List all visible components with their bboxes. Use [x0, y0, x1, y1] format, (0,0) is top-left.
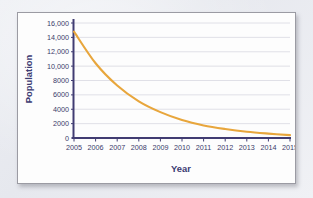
- y-tick-label: 10,000: [47, 62, 69, 71]
- x-tick-label: 2012: [217, 143, 233, 152]
- x-tick-label: 2014: [260, 143, 276, 152]
- y-tick-label: 14,000: [47, 33, 69, 42]
- population-curve: [74, 32, 290, 136]
- x-tick-label: 2011: [196, 143, 211, 152]
- x-tick-label: 2008: [131, 143, 147, 152]
- y-tick-label: 16,000: [47, 19, 69, 28]
- x-tick-label: 2007: [109, 143, 125, 152]
- y-axis-title: Population: [23, 55, 34, 104]
- x-tick-label: 2009: [152, 143, 168, 152]
- y-tick-label: 8000: [53, 76, 69, 85]
- x-tick-label: 2010: [174, 143, 190, 152]
- y-tick-label: 2000: [53, 119, 69, 128]
- x-tick-label: 2006: [88, 143, 104, 152]
- y-tick-label: 4000: [53, 105, 69, 114]
- chart-figure: 0200040006000800010,00012,00014,00016,00…: [17, 12, 296, 184]
- figure-page: 0200040006000800010,00012,00014,00016,00…: [0, 0, 313, 198]
- x-tick-label: 2005: [66, 143, 82, 152]
- gridlines: [74, 23, 290, 124]
- population-decay-line-chart: 0200040006000800010,00012,00014,00016,00…: [18, 13, 295, 183]
- x-tick-labels: 2005200620072008200920102011201220132014…: [66, 143, 295, 152]
- y-tick-label: 12,000: [47, 47, 69, 56]
- y-tick-label: 6000: [53, 90, 69, 99]
- x-tick-label: 2015: [282, 143, 295, 152]
- y-tick-labels: 0200040006000800010,00012,00014,00016,00…: [47, 19, 69, 143]
- x-axis-title: Year: [171, 163, 191, 174]
- y-tick-label: 0: [65, 134, 69, 143]
- chart-plot-area: 0200040006000800010,00012,00014,00016,00…: [18, 13, 295, 183]
- x-tick-label: 2013: [239, 143, 255, 152]
